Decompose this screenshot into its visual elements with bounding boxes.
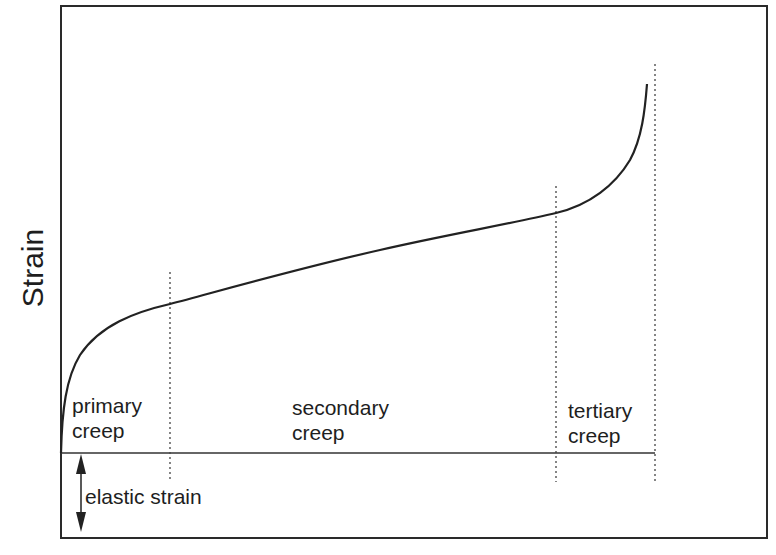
tertiary-label-line1: tertiary <box>568 398 632 423</box>
arrow-up-icon <box>76 454 86 474</box>
y-axis-label: Strain <box>16 208 50 328</box>
primary-label-line1: primary <box>72 393 142 418</box>
arrow-down-icon <box>76 512 86 532</box>
tertiary-label-line2: creep <box>568 423 632 448</box>
primary-label-line2: creep <box>72 418 142 443</box>
plot-frame <box>61 6 767 538</box>
secondary-label-line1: secondary <box>292 395 389 420</box>
creep-diagram <box>0 0 776 555</box>
secondary-creep-label: secondary creep <box>292 395 389 445</box>
tertiary-creep-label: tertiary creep <box>568 398 632 448</box>
secondary-label-line2: creep <box>292 420 389 445</box>
primary-creep-label: primary creep <box>72 393 142 443</box>
elastic-strain-label: elastic strain <box>85 484 202 509</box>
